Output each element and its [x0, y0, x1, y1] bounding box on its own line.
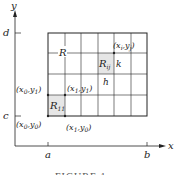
tick-label-c: c	[3, 110, 9, 121]
point-x1y1	[64, 94, 66, 96]
point-label-x0y0: (x0,y0)	[16, 120, 41, 130]
x-axis	[15, 144, 166, 148]
tick-label-b: b	[144, 149, 150, 160]
x-axis-arrow-icon	[159, 144, 166, 148]
x-axis-label: x	[168, 140, 174, 151]
point-xiyj	[113, 52, 115, 54]
y-axis-arrow-icon	[13, 10, 17, 17]
point-label-x0y1: (x0,y1)	[16, 85, 41, 95]
region-label: R	[58, 47, 67, 58]
y-axis-label: y	[10, 0, 17, 11]
width-label-h: h	[103, 77, 109, 87]
figure-caption: FIGURE 1	[55, 171, 107, 175]
point-label-xiyj: (xi,yj)	[113, 41, 135, 52]
point-label-x1y0: (x1,y0)	[66, 123, 91, 133]
double-integral-partition-diagram: y x d c a b R R11 Rij k h (xi,yj) (x0,y1…	[0, 0, 180, 175]
point-x0y1	[47, 94, 49, 96]
height-label-k: k	[116, 59, 121, 69]
tick-label-a: a	[45, 149, 51, 160]
point-x0y0	[47, 115, 49, 117]
tick-label-d: d	[3, 27, 9, 38]
point-label-x1y1: (x1,y1)	[67, 84, 92, 94]
point-x1y0	[64, 115, 66, 117]
